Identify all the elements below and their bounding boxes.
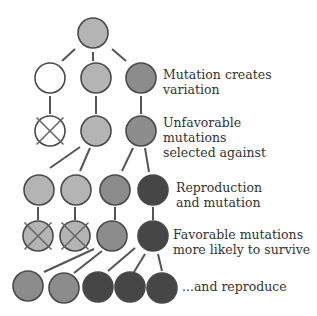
circle-icon — [78, 18, 108, 48]
edge-line — [145, 148, 149, 172]
organism-node — [35, 63, 65, 93]
circle-icon — [81, 63, 111, 93]
label-reproduce: ...and reproduce — [182, 279, 287, 294]
circle-icon — [61, 175, 91, 205]
circle-icon — [100, 175, 130, 205]
circle-icon — [13, 271, 43, 301]
organism-node — [78, 18, 108, 48]
circle-icon — [147, 273, 177, 303]
organism-node — [100, 175, 130, 205]
circle-icon — [138, 221, 168, 251]
organism-node — [83, 272, 113, 302]
edge-line — [122, 148, 133, 171]
organism-node — [61, 175, 91, 205]
edge-line — [134, 254, 145, 272]
organism-node — [138, 221, 168, 251]
label-unfavorable: Unfavorable mutations selected against — [163, 115, 266, 160]
circle-icon — [81, 116, 111, 146]
circle-icon — [126, 63, 156, 93]
circle-icon — [24, 175, 54, 205]
organism-node — [13, 271, 43, 301]
edge-line — [74, 251, 102, 273]
label-favorable: Favorable mutations more likely to survi… — [173, 227, 310, 257]
eliminated-organism-node — [23, 221, 53, 251]
organism-node — [138, 175, 168, 205]
edge-line — [112, 49, 126, 61]
edge-line — [44, 249, 94, 272]
organism-node — [49, 273, 79, 303]
circle-icon — [115, 272, 145, 302]
circle-icon — [126, 116, 156, 146]
eliminated-organism-node — [60, 221, 90, 251]
natural-selection-diagram — [0, 0, 317, 316]
organism-node — [97, 221, 127, 251]
organism-node — [115, 272, 145, 302]
organism-node — [81, 116, 111, 146]
circle-icon — [138, 175, 168, 205]
organism-node — [126, 63, 156, 93]
organism-node — [147, 273, 177, 303]
organism-node — [24, 175, 54, 205]
circle-icon — [35, 63, 65, 93]
edge-line — [62, 49, 75, 61]
edge-line — [50, 147, 80, 168]
organism-node — [81, 63, 111, 93]
tree-nodes — [13, 18, 177, 303]
circle-icon — [97, 221, 127, 251]
label-mutation: Mutation creates variation — [163, 67, 272, 97]
label-reproduction: Reproduction and mutation — [176, 180, 262, 210]
circle-icon — [49, 273, 79, 303]
organism-node — [126, 116, 156, 146]
eliminated-organism-node — [35, 116, 65, 146]
edge-line — [158, 254, 162, 271]
circle-icon — [83, 272, 113, 302]
edge-line — [80, 148, 90, 171]
